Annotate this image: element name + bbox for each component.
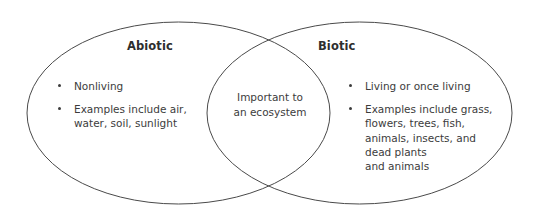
list-item: Living or once living	[348, 79, 508, 93]
left-set-title: Abiotic	[127, 39, 173, 53]
bullet-dot-icon	[58, 107, 61, 110]
left-set-bullet-list: Nonliving Examples include air, water, s…	[57, 79, 207, 131]
bullet-dot-icon	[349, 84, 352, 87]
list-item: Nonliving	[57, 79, 207, 93]
list-item-text: Examples include air, water, soil, sunli…	[74, 102, 207, 130]
list-item: Examples include grass, flowers, trees, …	[348, 102, 508, 173]
overlap-region-text: Important to an ecosystem	[212, 90, 328, 119]
right-set-bullet-list: Living or once living Examples include g…	[348, 79, 508, 173]
venn-diagram: Abiotic Biotic Nonliving Examples includ…	[0, 0, 536, 222]
list-item: Examples include air, water, soil, sunli…	[57, 102, 207, 130]
list-item-text: Examples include grass, flowers, trees, …	[365, 102, 508, 173]
bullet-dot-icon	[58, 84, 61, 87]
bullet-dot-icon	[349, 107, 352, 110]
list-item-text: Living or once living	[365, 79, 508, 93]
list-item-text: Nonliving	[74, 79, 207, 93]
right-set-title: Biotic	[318, 39, 355, 53]
